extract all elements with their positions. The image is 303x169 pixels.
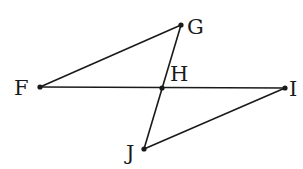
point-J	[141, 146, 146, 151]
point-H	[159, 85, 164, 90]
point-G	[178, 22, 183, 27]
segment-JI	[144, 88, 285, 149]
label-J: J	[124, 141, 134, 165]
label-G: G	[187, 15, 204, 39]
geometry-diagram: F G H I J	[0, 0, 303, 169]
segment-FG	[40, 25, 181, 87]
point-F	[37, 84, 42, 89]
point-I	[282, 85, 287, 90]
label-H: H	[170, 62, 188, 86]
label-I: I	[289, 77, 297, 101]
label-F: F	[14, 76, 29, 100]
